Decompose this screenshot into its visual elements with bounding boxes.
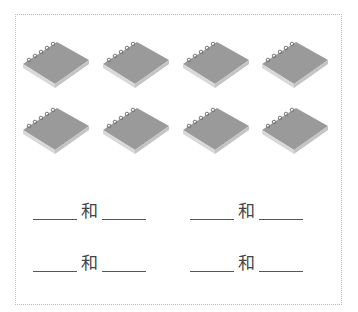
blank-line[interactable] bbox=[190, 271, 234, 272]
fill-blank-prompt: 和 bbox=[190, 200, 303, 224]
blank-line[interactable] bbox=[259, 219, 303, 220]
fill-blank-prompt: 和 bbox=[33, 252, 146, 276]
blank-line[interactable] bbox=[259, 271, 303, 272]
notebook-icon bbox=[103, 108, 169, 154]
notebook-icon bbox=[23, 108, 89, 154]
blank-line[interactable] bbox=[102, 271, 146, 272]
notebook-icon bbox=[262, 42, 328, 88]
conjunction-text: 和 bbox=[81, 202, 98, 220]
notebook-icon bbox=[103, 42, 169, 88]
conjunction-text: 和 bbox=[238, 202, 255, 220]
notebook-icon bbox=[262, 108, 328, 154]
notebook-icon bbox=[183, 108, 249, 154]
conjunction-text: 和 bbox=[238, 254, 255, 272]
blank-line[interactable] bbox=[102, 219, 146, 220]
notebook-icon bbox=[23, 42, 89, 88]
fill-blank-prompt: 和 bbox=[33, 200, 146, 224]
notebook-icon bbox=[183, 42, 249, 88]
blank-line[interactable] bbox=[33, 271, 77, 272]
conjunction-text: 和 bbox=[81, 254, 98, 272]
fill-blank-prompt: 和 bbox=[190, 252, 303, 276]
blank-line[interactable] bbox=[33, 219, 77, 220]
blank-line[interactable] bbox=[190, 219, 234, 220]
